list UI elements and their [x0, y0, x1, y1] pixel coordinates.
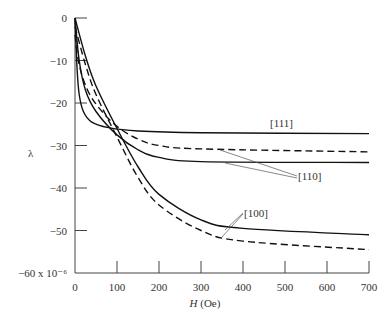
x-tick-label: 600	[319, 281, 336, 293]
curve-100-dashed	[75, 27, 369, 250]
y-tick-label: −60 x 10⁻⁶	[18, 267, 67, 279]
x-tick-label: 100	[109, 281, 126, 293]
x-tick-label: 700	[361, 281, 378, 293]
annotation-110: [110]	[298, 170, 321, 182]
x-tick-label: 300	[193, 281, 210, 293]
x-tick-label: 200	[151, 281, 168, 293]
curve-111-solid	[75, 18, 369, 134]
y-tick-label: −50	[50, 225, 68, 237]
annotation-100: [100]	[244, 207, 268, 219]
y-tick-label: −40	[50, 182, 68, 194]
y-tick-label: −10	[50, 55, 68, 67]
y-tick-label: 0	[62, 12, 68, 24]
annotation-111: [111]	[270, 117, 293, 129]
y-axis-label: λ	[28, 147, 34, 159]
x-axis-unit: (Oe)	[198, 297, 221, 310]
annotations: [111] [110] [100]	[220, 117, 321, 237]
curve-100-solid	[75, 18, 369, 235]
axes: 0−10−20−30−40−50−60 x 10⁻⁶01002003004005…	[18, 12, 378, 293]
curves	[75, 18, 369, 250]
y-tick-label: −30	[50, 140, 68, 152]
y-tick-label: −20	[50, 97, 68, 109]
magnetostriction-chart: 0−10−20−30−40−50−60 x 10⁻⁶01002003004005…	[0, 0, 392, 329]
x-tick-label: 400	[235, 281, 252, 293]
x-tick-label: 0	[72, 281, 78, 293]
curve-110-dashed	[75, 35, 369, 152]
x-tick-label: 500	[277, 281, 294, 293]
x-axis-label: H (Oe)	[189, 297, 221, 310]
annotation-arrows	[220, 150, 297, 237]
